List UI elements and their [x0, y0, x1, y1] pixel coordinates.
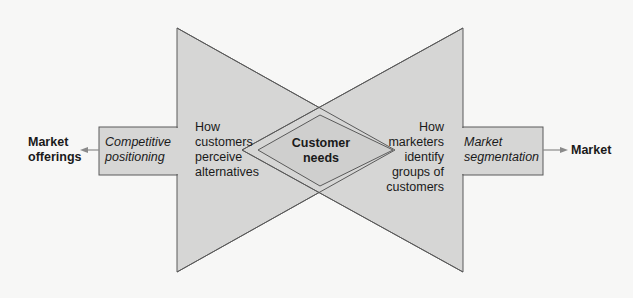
market-segmentation-label: Market segmentation: [464, 135, 539, 165]
left-arrow-icon: [80, 147, 99, 153]
right-arrow-icon: [543, 147, 568, 153]
right-text-line3: identify: [372, 150, 444, 165]
left-text-line1: How: [195, 120, 259, 135]
market-offerings-line2: offerings: [28, 150, 81, 165]
market-offerings-label: Market offerings: [28, 135, 81, 165]
right-text-line2: marketers: [372, 135, 444, 150]
right-text-line4: groups of: [372, 165, 444, 180]
left-text-line3: perceive: [195, 150, 259, 165]
market-segmentation-line2: segmentation: [464, 150, 539, 165]
how-customers-perceive-label: How customers perceive alternatives: [195, 120, 259, 180]
competitive-positioning-line2: positioning: [105, 150, 171, 165]
right-text-line5: customers: [372, 180, 444, 195]
customer-needs-line1: Customer: [285, 136, 357, 151]
market-segmentation-line1: Market: [464, 135, 539, 150]
left-text-line4: alternatives: [195, 165, 259, 180]
market-offerings-line1: Market: [28, 135, 81, 150]
competitive-positioning-label: Competitive positioning: [105, 135, 171, 165]
customer-needs-label: Customer needs: [285, 136, 357, 166]
competitive-positioning-line1: Competitive: [105, 135, 171, 150]
market-label: Market: [571, 143, 611, 158]
customer-needs-line2: needs: [285, 151, 357, 166]
right-text-line1: How: [372, 120, 444, 135]
diagram-canvas: Market offerings Competitive positioning…: [0, 0, 633, 298]
how-marketers-identify-label: How marketers identify groups of custome…: [372, 120, 444, 195]
left-text-line2: customers: [195, 135, 259, 150]
